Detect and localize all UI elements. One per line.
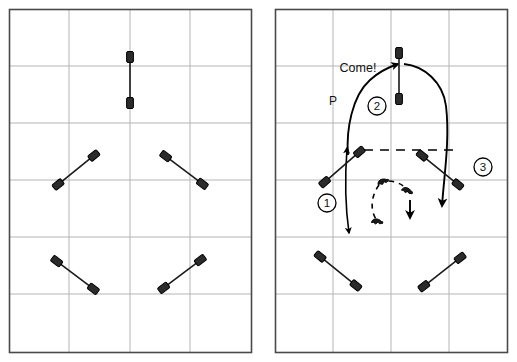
left-jump-mid-left (52, 149, 101, 190)
step-marker-2-label: 2 (374, 100, 380, 112)
handler-icon-upper-left (377, 177, 390, 185)
left-jump-low-left (50, 255, 100, 295)
right-jump-mid-left (318, 146, 365, 189)
handler-icon-lower-left (371, 218, 383, 225)
step-marker-2: 2 (368, 97, 386, 115)
dog-path-right (404, 64, 447, 206)
left-jump-low-right (157, 254, 207, 294)
left-jump-top-center (127, 52, 134, 109)
course-diagram-svg: Come! P 1 2 3 (0, 0, 517, 362)
step-marker-3-label: 3 (480, 161, 486, 173)
step-marker-1-label: 1 (324, 197, 330, 209)
handler-turn-path-left (372, 185, 379, 219)
right-jump-top-center (396, 48, 403, 105)
come-cue-label: Come! (340, 61, 377, 75)
left-jump-mid-right (159, 150, 209, 190)
handler-icon-right (401, 186, 414, 196)
step-marker-3: 3 (474, 158, 492, 176)
right-jump-low-right (417, 252, 466, 292)
handler-position-label: P (329, 94, 337, 108)
right-panel: Come! P 1 2 3 (275, 9, 508, 353)
right-jump-low-left (314, 250, 363, 291)
diagram-stage: Come! P 1 2 3 (0, 0, 517, 362)
right-jump-mid-right (416, 149, 465, 190)
step-marker-1: 1 (318, 194, 336, 212)
left-panel (9, 9, 252, 353)
